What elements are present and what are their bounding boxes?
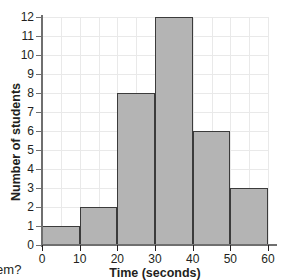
x-tick-mark xyxy=(42,245,43,251)
y-tick-mark xyxy=(36,74,42,75)
y-tick-mark xyxy=(36,55,42,56)
y-tick-mark xyxy=(36,36,42,37)
y-tick-mark xyxy=(36,93,42,94)
y-tick-mark xyxy=(36,226,42,227)
y-tick-mark xyxy=(36,150,42,151)
histogram-page: 0123456789101112 0102030405060 Time (sec… xyxy=(0,0,293,280)
y-tick-mark xyxy=(36,207,42,208)
x-tick-label: 30 xyxy=(135,253,175,265)
y-axis-title: Number of students xyxy=(9,62,23,222)
histogram-bar xyxy=(155,17,193,245)
y-tick-label: 0 xyxy=(4,239,34,251)
x-tick-mark xyxy=(230,245,231,251)
histogram-bar xyxy=(230,188,268,245)
histogram-bar xyxy=(117,93,155,245)
x-tick-label: 50 xyxy=(210,253,250,265)
x-axis-title: Time (seconds) xyxy=(42,266,268,280)
y-tick-mark xyxy=(36,112,42,113)
y-tick-mark xyxy=(36,169,42,170)
y-tick-mark xyxy=(36,17,42,18)
y-tick-label: 12 xyxy=(4,11,34,23)
gridline-vertical xyxy=(268,17,269,245)
y-tick-label: 10 xyxy=(4,49,34,61)
plot-area xyxy=(42,17,268,245)
histogram-bar xyxy=(193,131,231,245)
x-tick-mark xyxy=(80,245,81,251)
x-tick-mark xyxy=(268,245,269,251)
gridline-vertical xyxy=(61,17,62,245)
x-tick-mark xyxy=(193,245,194,251)
x-tick-label: 60 xyxy=(248,253,288,265)
x-tick-label: 0 xyxy=(22,253,62,265)
y-tick-label: 11 xyxy=(4,30,34,42)
x-tick-mark xyxy=(117,245,118,251)
x-tick-label: 10 xyxy=(60,253,100,265)
x-axis-line xyxy=(41,244,277,246)
x-tick-label: 20 xyxy=(97,253,137,265)
y-tick-mark xyxy=(36,131,42,132)
x-tick-label: 40 xyxy=(173,253,213,265)
histogram-bar xyxy=(80,207,118,245)
x-tick-mark xyxy=(155,245,156,251)
clipped-question-text: blem? xyxy=(0,262,21,277)
histogram-chart: 0123456789101112 0102030405060 Time (sec… xyxy=(0,0,293,280)
histogram-bar xyxy=(42,226,80,245)
y-tick-mark xyxy=(36,188,42,189)
